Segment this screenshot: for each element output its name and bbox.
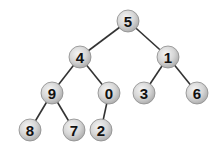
tree-node-6: 6 [186,82,208,104]
tree-node-5: 5 [117,10,139,32]
binary-tree-diagram: 5419036872 [0,0,221,150]
node-label: 5 [124,13,132,30]
tree-node-3: 3 [133,82,155,104]
tree-node-7: 7 [63,119,85,141]
nodes: 5419036872 [19,10,208,141]
tree-node-0: 0 [98,82,120,104]
tree-node-2: 2 [90,119,112,141]
node-label: 7 [70,122,78,139]
node-label: 8 [26,122,34,139]
node-label: 9 [48,85,56,102]
tree-node-4: 4 [69,46,91,68]
node-label: 6 [193,85,201,102]
node-label: 1 [164,49,172,66]
edges [30,21,197,130]
node-label: 2 [97,122,105,139]
node-label: 4 [76,49,85,66]
node-label: 0 [105,85,113,102]
node-label: 3 [140,85,148,102]
tree-node-9: 9 [41,82,63,104]
tree-node-1: 1 [157,46,179,68]
tree-node-8: 8 [19,119,41,141]
